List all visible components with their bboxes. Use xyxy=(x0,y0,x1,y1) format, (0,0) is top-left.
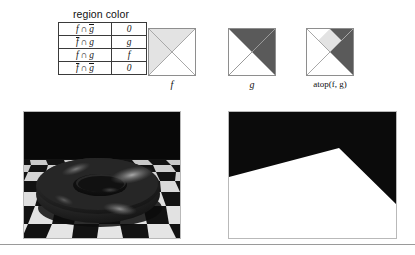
table-row: f ∩ g f xyxy=(59,49,147,62)
table-row: f ∩ g 0 xyxy=(59,23,147,36)
diagram-square-f: f xyxy=(148,28,196,90)
table-row: f ∩ g 0 xyxy=(59,62,147,75)
square-f-caption: f xyxy=(148,79,196,90)
table-cell-region: f ∩ g xyxy=(59,62,112,75)
table-cell-color: 0 xyxy=(112,62,147,75)
square-atop-graphic xyxy=(306,28,354,76)
region-color-table-block: region color f ∩ g 0 f ∩ g g f ∩ g f f ∩… xyxy=(58,8,144,75)
table-cell-region: f ∩ g xyxy=(59,49,112,62)
figure-top-section: region color f ∩ g 0 f ∩ g g f ∩ g f f ∩… xyxy=(0,0,415,100)
table-cell-region: f ∩ g xyxy=(59,36,112,49)
table-cell-color: f xyxy=(112,49,147,62)
square-g-caption: g xyxy=(228,79,276,90)
torus-on-checkerboard-render xyxy=(23,111,181,239)
table-cell-color: g xyxy=(112,36,147,49)
region-color-table: f ∩ g 0 f ∩ g g f ∩ g f f ∩ g 0 xyxy=(58,22,147,75)
square-g-graphic xyxy=(228,28,276,76)
square-atop-caption: atop(f, g) xyxy=(306,79,354,89)
region-color-table-title: region color xyxy=(58,8,144,20)
table-cell-region: f ∩ g xyxy=(59,23,112,36)
table-cell-color: 0 xyxy=(112,23,147,36)
diagram-square-atop: atop(f, g) xyxy=(306,28,354,89)
bottom-divider-rule xyxy=(0,244,415,245)
square-f-graphic xyxy=(148,28,196,76)
diagram-square-g: g xyxy=(228,28,276,90)
table-row: f ∩ g g xyxy=(59,36,147,49)
floor-coverage-matte xyxy=(228,111,397,239)
